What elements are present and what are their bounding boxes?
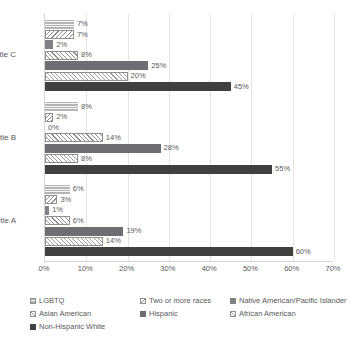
legend-swatch-icon — [30, 311, 36, 317]
chart-title — [0, 0, 354, 6]
legend-label: Asian American — [39, 310, 91, 318]
bar[interactable] — [45, 133, 103, 142]
bar[interactable] — [45, 227, 123, 236]
legend-label: Native American/Pacific Islander — [239, 297, 347, 305]
x-axis-tick-label: 70% — [325, 264, 340, 273]
category-label: Title B — [0, 133, 16, 142]
bar-value-label: 7% — [77, 31, 88, 39]
bar[interactable] — [45, 82, 231, 91]
bar-row: 8% — [45, 51, 334, 60]
x-axis-tick-label: 50% — [243, 264, 258, 273]
bar-row: 60% — [45, 247, 334, 256]
bar[interactable] — [45, 20, 74, 29]
legend-swatch-icon — [140, 311, 146, 317]
chart-legend: LGBTQ Two or more races Native American/… — [30, 297, 350, 336]
bar-group: 6%3%1%6%19%14%60% — [45, 179, 333, 262]
legend-row: Non-Hispanic White — [30, 323, 350, 336]
bar[interactable] — [45, 72, 128, 81]
bar-value-label: 19% — [126, 227, 141, 235]
bar-row: 6% — [45, 185, 334, 194]
bar-row: 19% — [45, 227, 334, 236]
legend-label: Non-Hispanic White — [39, 323, 105, 331]
plot-area: 7%7%2%8%25%20%45%8%2%0%14%28%8%55%6%3%1%… — [44, 14, 333, 262]
bar-group: 7%7%2%8%25%20%45% — [45, 14, 333, 97]
bar-chart: 7%7%2%8%25%20%45%8%2%0%14%28%8%55%6%3%1%… — [0, 0, 354, 349]
bar-row: 8% — [45, 102, 334, 111]
bar[interactable] — [45, 61, 148, 70]
bar[interactable] — [45, 30, 74, 39]
x-axis-tick-label: 40% — [202, 264, 217, 273]
bar-value-label: 55% — [275, 165, 290, 173]
bar-value-label: 6% — [73, 217, 84, 225]
bar[interactable] — [45, 185, 70, 194]
bar-value-label: 14% — [106, 134, 121, 142]
legend-swatch-icon — [230, 298, 236, 304]
bar[interactable] — [45, 237, 103, 246]
category-label: Title C — [0, 50, 16, 59]
gridline — [334, 14, 335, 261]
legend-label: Hispanic — [149, 310, 178, 318]
bar-row: 6% — [45, 216, 334, 225]
bar-row: 1% — [45, 206, 334, 215]
bar-row: 28% — [45, 144, 334, 153]
x-axis-tick-label: 10% — [78, 264, 93, 273]
bar-value-label: 45% — [234, 83, 249, 91]
bar-row: 20% — [45, 72, 334, 81]
legend-label: Two or more races — [149, 297, 211, 305]
bar-value-label: 25% — [151, 62, 166, 70]
bar-value-label: 0% — [48, 124, 59, 132]
legend-swatch-icon — [30, 324, 36, 330]
legend-label: African American — [239, 310, 296, 318]
bar-value-label: 2% — [56, 113, 67, 121]
bar-row: 55% — [45, 165, 334, 174]
bar[interactable] — [45, 195, 57, 204]
legend-label: LGBTQ — [39, 297, 64, 305]
legend-item-lgbtq[interactable]: LGBTQ — [30, 297, 64, 305]
bar[interactable] — [45, 102, 78, 111]
legend-item-hispanic[interactable]: Hispanic — [140, 310, 178, 318]
bar[interactable] — [45, 40, 53, 49]
x-axis-tick-label: 30% — [160, 264, 175, 273]
bar-value-label: 8% — [81, 52, 92, 60]
bar-value-label: 60% — [296, 248, 311, 256]
bar-value-label: 2% — [56, 41, 67, 49]
bar-row: 14% — [45, 237, 334, 246]
x-axis-tick-label: 60% — [284, 264, 299, 273]
bar-value-label: 28% — [164, 145, 179, 153]
bar-value-label: 3% — [60, 196, 71, 204]
x-axis-tick-label: 0% — [39, 264, 50, 273]
bar-value-label: 6% — [73, 186, 84, 194]
bar-value-label: 7% — [77, 20, 88, 28]
legend-item-african-american[interactable]: African American — [230, 310, 296, 318]
bar[interactable] — [45, 154, 78, 163]
legend-swatch-icon — [140, 298, 146, 304]
legend-item-asian-american[interactable]: Asian American — [30, 310, 91, 318]
bar[interactable] — [45, 247, 293, 256]
bar-row: 25% — [45, 61, 334, 70]
bar-row: 8% — [45, 154, 334, 163]
bar-value-label: 8% — [81, 155, 92, 163]
bar[interactable] — [45, 216, 70, 225]
bar[interactable] — [45, 51, 78, 60]
legend-item-non-hispanic-white[interactable]: Non-Hispanic White — [30, 323, 105, 331]
bar-value-label: 1% — [52, 207, 63, 215]
bar[interactable] — [45, 165, 272, 174]
legend-item-two-or-more-races[interactable]: Two or more races — [140, 297, 211, 305]
legend-swatch-icon — [230, 311, 236, 317]
bar[interactable] — [45, 206, 49, 215]
bar-row: 2% — [45, 40, 334, 49]
legend-item-native-american-pacific-islander[interactable]: Native American/Pacific Islander — [230, 297, 347, 305]
bar-value-label: 20% — [131, 72, 146, 80]
bar-group: 8%2%0%14%28%8%55% — [45, 97, 333, 180]
legend-swatch-icon — [30, 298, 36, 304]
bar-row: 45% — [45, 82, 334, 91]
bar-row: 0% — [45, 123, 334, 132]
bar[interactable] — [45, 144, 161, 153]
bar-value-label: 8% — [81, 103, 92, 111]
category-label: Title A — [0, 216, 16, 225]
bar-row: 14% — [45, 133, 334, 142]
bar-row: 7% — [45, 20, 334, 29]
bar[interactable] — [45, 113, 53, 122]
bar-row: 2% — [45, 113, 334, 122]
bar-row: 7% — [45, 30, 334, 39]
